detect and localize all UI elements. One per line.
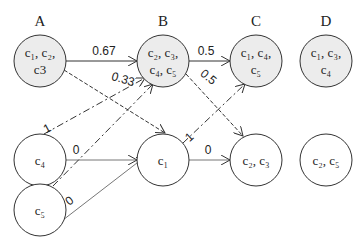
column-label-a: A <box>35 13 46 29</box>
edges <box>44 61 245 220</box>
node-c5: c₅ <box>14 184 66 236</box>
node-c2c3: c₂, c₃ <box>230 134 282 186</box>
node-a-line-1: c₁, c₂, <box>25 45 55 60</box>
edge-label-c1-c2c3: 0 <box>205 143 212 157</box>
edge-label-c4-c1: 0 <box>73 143 80 157</box>
node-b: c₂, c₃, c₄, c₅ <box>137 35 189 87</box>
edge-label-b-c2c3: 0.5 <box>198 66 220 88</box>
column-label-c: C <box>251 13 261 29</box>
edge-b-c2c3 <box>186 74 243 136</box>
node-c4-label: c₄ <box>35 153 46 168</box>
column-label-b: B <box>158 13 168 29</box>
transition-diagram: A B C D 0.67 0.33 1 0 1 0 0.5 0.5 1 0 c₁… <box>0 0 360 246</box>
node-c-line-1: c₁, c₄, <box>241 45 271 60</box>
node-c-line-2: c₅ <box>251 62 261 77</box>
edge-c5-b <box>53 84 153 186</box>
column-label-d: D <box>321 13 332 29</box>
node-d: c₁, c₃, c₄ <box>300 35 352 87</box>
edge-c1-c <box>183 84 245 143</box>
edge-label-b-c: 0.5 <box>198 44 215 58</box>
node-b-line-1: c₂, c₃, <box>148 45 178 60</box>
node-c2c3-label: c₂, c₃ <box>242 153 269 168</box>
node-a: c₁, c₂, c3 <box>14 35 66 87</box>
node-a-line-2: c3 <box>34 62 46 77</box>
node-c5-label: c₅ <box>35 203 45 218</box>
node-c4: c₄ <box>14 134 66 186</box>
node-c2c5-label: c₂, c₅ <box>312 153 339 168</box>
node-b-line-2: c₄, c₅ <box>149 62 176 77</box>
edge-label-a-b: 0.67 <box>92 44 116 58</box>
node-d-line-1: c₁, c₃, <box>311 45 341 60</box>
node-c1-label: c₁ <box>158 153 168 168</box>
node-c: c₁, c₄, c₅ <box>230 35 282 87</box>
node-d-line-2: c₄ <box>321 62 332 77</box>
node-c2c5: c₂, c₅ <box>300 134 352 186</box>
edge-c5-c1 <box>63 156 146 220</box>
node-c1: c₁ <box>137 134 189 186</box>
edge-label-a-c1: 0.33 <box>110 69 137 89</box>
